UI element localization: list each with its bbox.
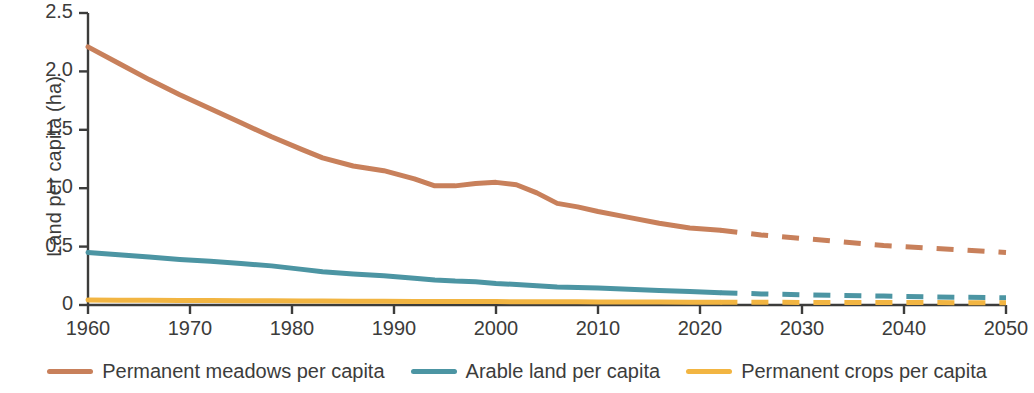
y-axis-tick-label: 1.0: [13, 175, 73, 198]
x-axis-tick-label: 1980: [252, 317, 332, 340]
x-axis-tick-label: 2040: [864, 317, 944, 340]
y-axis-tick-label: 1.5: [13, 117, 73, 140]
legend-item[interactable]: Arable land per capita: [411, 360, 661, 383]
series-line-1-historical: [88, 252, 720, 292]
x-axis-tick-label: 1990: [354, 317, 434, 340]
legend-label: Permanent crops per capita: [741, 360, 987, 383]
line-chart: Land per capita (ha) 2.52.01.51.00.50 19…: [0, 0, 1034, 393]
x-axis-tick-label: 2010: [558, 317, 638, 340]
series-line-0-projected: [720, 230, 1006, 252]
y-axis-tick-label: 2.5: [13, 0, 73, 23]
x-axis-tick-label: 2030: [762, 317, 842, 340]
series-line-1-projected: [720, 293, 1006, 298]
legend-label: Permanent meadows per capita: [102, 360, 384, 383]
x-axis-tick-label: 2020: [660, 317, 740, 340]
chart-legend: Permanent meadows per capitaArable land …: [0, 360, 1034, 383]
legend-item[interactable]: Permanent crops per capita: [686, 360, 987, 383]
x-axis-tick-label: 1960: [48, 317, 128, 340]
legend-item[interactable]: Permanent meadows per capita: [47, 360, 384, 383]
x-axis-tick-label: 1970: [150, 317, 230, 340]
y-axis-tick-label: 0: [13, 292, 73, 315]
legend-color-swatch: [411, 369, 457, 374]
legend-label: Arable land per capita: [466, 360, 661, 383]
y-axis-tick-label: 2.0: [13, 58, 73, 81]
x-axis-tick-label: 2050: [966, 317, 1034, 340]
legend-color-swatch: [47, 369, 93, 374]
legend-color-swatch: [686, 369, 732, 374]
series-line-2-historical: [88, 300, 720, 302]
x-axis-tick-label: 2000: [456, 317, 536, 340]
y-axis-tick-label: 0.5: [13, 234, 73, 257]
series-line-0-historical: [88, 47, 720, 230]
